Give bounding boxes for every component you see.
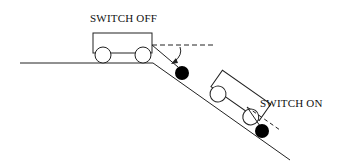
switch-on-label: SWITCH ON xyxy=(260,97,323,109)
ball-on xyxy=(255,124,269,138)
ball-off xyxy=(175,66,189,80)
cart-off xyxy=(93,33,152,63)
cart-off-wheel-rear xyxy=(95,47,111,63)
switch-off-label: SWITCH OFF xyxy=(90,12,157,24)
tilt-switch-diagram: SWITCH OFF SWITCH ON xyxy=(0,0,344,167)
pendulum-arm-off xyxy=(152,45,178,67)
cart-off-wheel-front xyxy=(135,47,151,63)
